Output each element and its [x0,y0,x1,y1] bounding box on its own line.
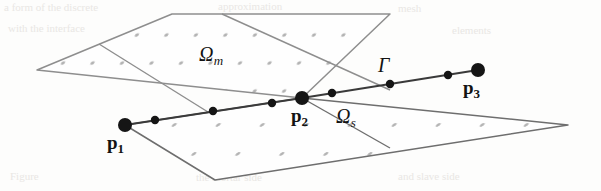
interface-node-p2 [295,91,309,105]
point-label-p1-subscript: 1 [118,141,124,156]
point-label-p2-base: p [291,105,301,126]
interface-minor-node-5 [444,71,452,79]
domain-label-omega-s-base: Ω [336,105,350,127]
domain-label-omega-m-base: Ω [199,43,213,65]
domain-label-omega-m-subscript: m [214,53,223,68]
point-label-p3-base: p [463,77,473,98]
point-label-p2: p2 [291,106,308,128]
interface-minor-node-2 [268,99,276,107]
geometry-diagram-canvas [0,0,601,191]
interface-node-p3 [471,63,485,77]
domain-label-omega-m: Ωm [199,44,223,67]
interface-minor-node-0 [151,116,159,124]
interface-minor-node-1 [209,107,217,115]
point-label-p1: p1 [107,133,124,155]
interface-node-p1 [118,118,132,132]
figure-root: a form of the discreteapproximationmeshw… [0,0,601,191]
point-label-p2-subscript: 2 [302,114,308,129]
domain-label-omega-s-subscript: s [351,115,356,130]
point-label-p3-subscript: 3 [474,86,480,101]
interface-minor-node-4 [386,80,394,88]
domain-label-omega-s: Ωs [336,106,356,129]
point-label-p3: p3 [463,78,480,100]
interface-minor-node-3 [328,89,336,97]
interface-label-gamma: Γ [378,55,389,75]
point-label-p1-base: p [107,132,117,153]
